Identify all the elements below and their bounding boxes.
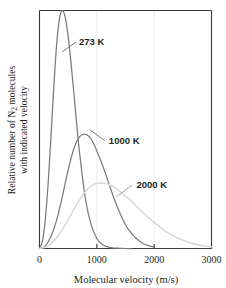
x-tick-label-0: 0 [37,254,42,265]
y-axis-title-line-2: with indicated velocity [18,86,29,174]
x-tick-label-2000: 2000 [144,254,164,265]
x-tick-label-1000: 1000 [87,254,107,265]
y-axis-title-line-1-tail: molecules [6,66,17,108]
series-label-273k: 273 K [79,36,104,47]
y-axis-title-line-1-head: Relative number of N [6,111,17,194]
series-label-2000k: 2000 K [136,179,167,190]
maxwell-boltzmann-distribution-chart: 0100020003000 273 K 1000 K 2000 K Molecu… [0,0,226,288]
x-axis-title: Molecular velocity (m/s) [74,274,179,286]
chart-figure: 0100020003000 273 K 1000 K 2000 K Molecu… [0,0,226,288]
series-label-1000k: 1000 K [109,135,140,146]
x-tick-label-3000: 3000 [202,254,222,265]
